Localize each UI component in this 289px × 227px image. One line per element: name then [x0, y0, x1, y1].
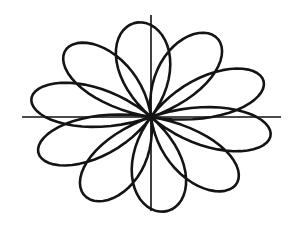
figure-canvas: [0, 0, 289, 227]
polar-rose-figure: [0, 0, 289, 227]
